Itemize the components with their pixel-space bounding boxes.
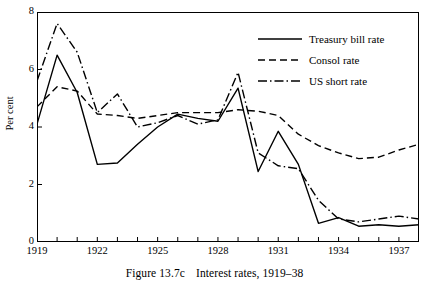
- legend-item-treasury-bill-rate: Treasury bill rate: [258, 28, 408, 49]
- legend-swatch-solid-icon: [258, 33, 302, 45]
- x-tick-label-1931: 1931: [268, 245, 289, 256]
- legend-label-us-short-rate: US short rate: [309, 75, 367, 87]
- x-tick-label-1919: 1919: [27, 245, 48, 256]
- x-tick-label-1937: 1937: [388, 245, 409, 256]
- legend-item-us-short-rate: US short rate: [258, 70, 408, 91]
- figure-container: 02468 Per cent 1919192219251928193119341…: [0, 0, 429, 290]
- legend-label-consol-rate: Consol rate: [309, 54, 359, 66]
- legend-label-treasury-bill-rate: Treasury bill rate: [309, 33, 384, 45]
- y-axis-title: Per cent: [4, 84, 15, 144]
- x-axis-ticks: [37, 237, 419, 242]
- chart-legend: Treasury bill rate Consol rate US short …: [258, 28, 408, 91]
- x-axis-tick-labels: 1919192219251928193119341937: [0, 245, 429, 261]
- y-tick-label-8: 8: [4, 6, 34, 16]
- x-tick-label-1925: 1925: [147, 245, 168, 256]
- y-axis-ticks: [37, 12, 42, 242]
- y-tick-label-2: 2: [4, 179, 34, 189]
- figure-caption: Figure 13.7cInterest rates, 1919–38: [0, 267, 429, 279]
- legend-swatch-dashdot-icon: [258, 75, 302, 87]
- y-tick-label-6: 6: [4, 64, 34, 74]
- legend-item-consol-rate: Consol rate: [258, 49, 408, 70]
- x-tick-label-1928: 1928: [207, 245, 228, 256]
- caption-figure-number: Figure 13.7c: [126, 267, 185, 279]
- x-tick-label-1922: 1922: [87, 245, 108, 256]
- x-tick-label-1934: 1934: [328, 245, 349, 256]
- legend-swatch-dashed-icon: [258, 54, 302, 66]
- caption-title: Interest rates, 1919–38: [196, 267, 303, 279]
